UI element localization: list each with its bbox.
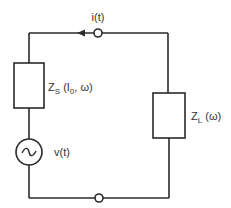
top-terminal-icon <box>94 29 102 37</box>
circuit-diagram: i(t) v(t) ZS (I0, ω) ZL (ω) <box>0 0 231 208</box>
current-arrow-icon <box>77 30 85 37</box>
bottom-terminal-icon <box>95 194 103 202</box>
source-impedance-label: ZS (I0, ω) <box>48 81 93 96</box>
source-voltage-label: v(t) <box>54 146 70 158</box>
source-impedance-box <box>14 63 44 108</box>
current-label: i(t) <box>92 11 105 23</box>
load-impedance-box <box>153 93 185 138</box>
load-impedance-label: ZL (ω) <box>191 110 221 125</box>
